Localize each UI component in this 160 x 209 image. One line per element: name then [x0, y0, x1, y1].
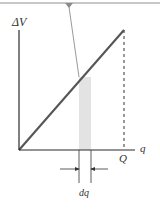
leader-line	[69, 7, 79, 77]
dq-strip	[79, 77, 91, 150]
x-axis-label: q	[140, 143, 146, 154]
graph-canvas	[0, 0, 160, 209]
voltage-line	[19, 30, 124, 150]
capacitor-energy-graph: ΔV q Q dq	[0, 0, 160, 209]
dq-label: dq	[79, 188, 89, 198]
q-marker-label: Q	[119, 153, 127, 164]
y-axis-label: ΔV	[12, 16, 26, 28]
